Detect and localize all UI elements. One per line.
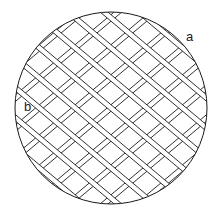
label-a: a [186, 30, 193, 43]
crosshatch-disc-diagram [0, 0, 215, 207]
label-b: b [24, 100, 31, 113]
down-right-band [1, 0, 215, 186]
up-right-band [0, 0, 215, 186]
crosshatch-bands [0, 0, 215, 207]
